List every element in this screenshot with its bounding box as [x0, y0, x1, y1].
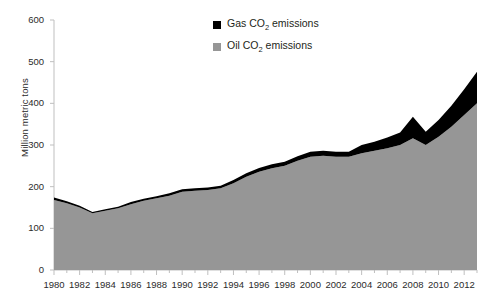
y-axis-tick-0: 0 — [10, 264, 44, 275]
series-layer — [54, 72, 477, 270]
chart-legend: Gas CO2 emissions Oil CO2 emissions — [213, 14, 319, 58]
y-axis-tick-600: 600 — [10, 14, 44, 25]
y-axis-tick-500: 500 — [10, 56, 44, 67]
y-axis-tick-300: 300 — [10, 139, 44, 150]
chart-container: Million metric tons 0100200300400500600 … — [0, 0, 497, 308]
legend-swatch-gas — [213, 21, 221, 29]
x-axis-tick-2012: 2012 — [447, 279, 481, 290]
y-axis-tick-200: 200 — [10, 181, 44, 192]
legend-item-gas: Gas CO2 emissions — [213, 14, 319, 36]
y-axis-tick-400: 400 — [10, 97, 44, 108]
legend-label-gas: Gas CO2 emissions — [227, 17, 319, 32]
y-axis-tick-100: 100 — [10, 222, 44, 233]
legend-label-oil: Oil CO2 emissions — [227, 39, 312, 54]
legend-item-oil: Oil CO2 emissions — [213, 36, 319, 58]
legend-swatch-oil — [213, 43, 221, 51]
